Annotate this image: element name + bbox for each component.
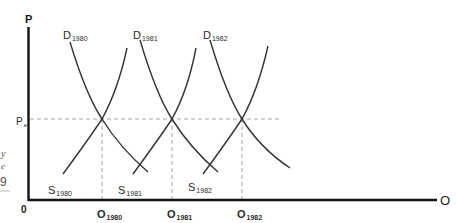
supply-letter: S (188, 181, 195, 193)
demand-letter: D (133, 29, 141, 41)
supply-letter: S (118, 184, 125, 196)
demand-year: 1980 (72, 35, 88, 42)
quantity-letter: O (167, 208, 176, 220)
equilibrium-price-label: Pe (16, 112, 27, 128)
supply-curve-1980 (63, 48, 127, 174)
supply-label-1981: S1981 (118, 181, 142, 197)
supply-demand-diagram: P O 0 Pe D1980 D1981 D1982 S1980 S1981 S… (0, 0, 456, 223)
demand-label-1981: D1981 (133, 26, 158, 42)
supply-curve-1981 (133, 48, 196, 174)
quantity-year: 1980 (107, 214, 123, 221)
margin-fragment-1: y (1, 149, 5, 159)
demand-letter: D (203, 29, 211, 41)
price-level-subscript: e (24, 122, 27, 128)
quantity-label-1980: O1980 (97, 205, 122, 221)
demand-curve-1980 (70, 42, 148, 172)
demand-label-1982: D1982 (203, 26, 228, 42)
demand-letter: D (63, 29, 71, 41)
axes (28, 27, 437, 201)
demand-label-1980: D1980 (63, 26, 88, 42)
price-level-letter: P (16, 116, 23, 127)
supply-label-1980: S1980 (48, 181, 72, 197)
quantity-year: 1982 (247, 214, 263, 221)
demand-year: 1982 (212, 35, 228, 42)
demand-curves (70, 40, 290, 172)
price-axis-label: P (25, 14, 32, 25)
supply-year: 1982 (196, 187, 212, 194)
quantity-year: 1981 (177, 214, 193, 221)
margin-fragment-3: 9 (0, 176, 7, 188)
quantity-label-1981: O1981 (167, 205, 192, 221)
quantity-letter: O (97, 208, 106, 220)
supply-letter: S (48, 184, 55, 196)
quantity-letter: O (237, 208, 246, 220)
margin-fragment-2: e (1, 162, 5, 171)
supply-year: 1981 (126, 190, 142, 197)
supply-year: 1980 (56, 190, 72, 197)
quantity-axis-label: O (440, 194, 450, 207)
quantity-label-1982: O1982 (237, 205, 262, 221)
supply-curve-1982 (203, 46, 268, 174)
supply-label-1982: S1982 (188, 178, 212, 194)
demand-year: 1981 (142, 35, 158, 42)
origin-label: 0 (21, 205, 27, 215)
